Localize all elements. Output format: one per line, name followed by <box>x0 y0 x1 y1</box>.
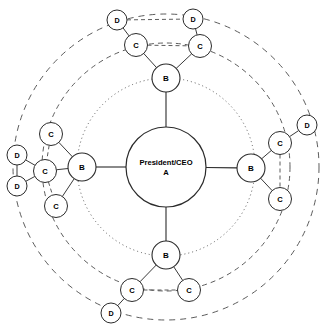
edge-b-left-to-c-left-mid <box>56 169 68 170</box>
node-label-d-right: D <box>304 121 309 130</box>
org-network-diagram: President/CEOABBBBCCCCCCCCCDDDDDD <box>0 0 324 332</box>
edge-b-right-to-c-right-upper <box>262 151 272 159</box>
node-label-c-left-mid: C <box>42 167 48 176</box>
node-c-right-upper[interactable]: C <box>269 132 292 155</box>
node-d-top-left[interactable]: D <box>107 10 127 30</box>
edge-d-top-left-to-d-top-right <box>127 19 183 20</box>
network-canvas: President/CEOABBBBCCCCCCCCCDDDDDD <box>0 0 324 332</box>
node-label-c-left-lower: C <box>53 202 59 211</box>
node-label-d-left-upper: D <box>14 151 19 160</box>
node-d-left-upper[interactable]: D <box>7 145 27 165</box>
edge-b-left-to-c-left-lower <box>62 179 74 197</box>
node-b-right[interactable]: B <box>237 154 265 182</box>
edge-b-left-to-c-left-upper <box>59 142 73 156</box>
edge-c-top-left-to-c-top-right <box>147 45 188 46</box>
node-c-top-left[interactable]: C <box>125 34 148 57</box>
edge-c-left-upper-to-c-left-mid <box>47 145 49 159</box>
node-label-d-bottom: D <box>108 309 113 318</box>
node-label-b-left: B <box>79 163 85 172</box>
node-d-top-right[interactable]: D <box>183 9 203 29</box>
node-b-bottom[interactable]: B <box>152 241 180 269</box>
node-label-c-bottom-right: C <box>186 286 192 295</box>
node-label-c-left-upper: C <box>48 130 54 139</box>
node-label-c-bottom-left: C <box>129 286 135 295</box>
node-label-d-top-right: D <box>190 15 195 24</box>
node-c-bottom-left[interactable]: C <box>121 279 144 302</box>
node-label-c-top-left: C <box>133 41 139 50</box>
edge-c-left-mid-to-c-left-lower <box>48 182 52 195</box>
node-label-b-right: B <box>248 164 254 173</box>
edge-b-bottom-to-c-bottom-right <box>174 267 183 281</box>
node-c-left-upper[interactable]: C <box>40 123 63 146</box>
node-b-top[interactable]: B <box>152 64 180 92</box>
node-c-top-right[interactable]: C <box>189 35 212 58</box>
node-c-right-lower[interactable]: C <box>269 188 292 211</box>
edge-b-top-to-c-top-right <box>176 54 191 69</box>
edge-c-left-mid-to-d-left-lower <box>26 176 35 181</box>
edge-c-top-left-to-d-top-left <box>123 28 129 36</box>
node-label-b-bottom: B <box>163 251 169 260</box>
edge-b-bottom-to-c-bottom-left <box>140 265 156 282</box>
node-label-c-right-lower: C <box>277 195 283 204</box>
node-b-left[interactable]: B <box>68 153 96 181</box>
node-circle-center-node <box>126 127 206 207</box>
node-label-d-left-lower: D <box>14 182 19 191</box>
edge-c-right-upper-to-d-right <box>290 131 299 137</box>
node-center-node[interactable]: President/CEOA <box>126 127 206 207</box>
node-label-c-top-right: C <box>197 42 203 51</box>
edge-c-left-mid-to-d-left-upper <box>26 160 35 165</box>
node-label-d-top-left: D <box>114 16 119 25</box>
node-d-left-lower[interactable]: D <box>7 176 27 196</box>
edge-c-top-right-to-d-top-right <box>196 29 198 35</box>
node-label-b-top: B <box>163 74 169 83</box>
node-c-left-lower[interactable]: C <box>45 195 68 218</box>
edge-b-right-to-c-right-lower <box>261 178 273 190</box>
node-label-center-node-line2: A <box>163 168 169 177</box>
node-c-bottom-right[interactable]: C <box>178 279 201 302</box>
node-label-center-node-line1: President/CEO <box>139 158 192 167</box>
node-c-left-mid[interactable]: C <box>34 160 57 183</box>
node-d-right[interactable]: D <box>297 115 317 135</box>
edge-c-bottom-left-to-d-bottom <box>118 298 125 305</box>
nodes-layer: President/CEOABBBBCCCCCCCCCDDDDDD <box>7 9 317 323</box>
node-d-bottom[interactable]: D <box>101 303 121 323</box>
edge-b-top-to-c-top-left <box>144 54 157 68</box>
node-label-c-right-upper: C <box>277 139 283 148</box>
